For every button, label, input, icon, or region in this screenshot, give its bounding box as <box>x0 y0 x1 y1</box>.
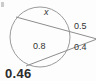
label-external-segment-lower: 0.4 <box>74 43 87 52</box>
circle-shape <box>10 7 70 67</box>
answer-value: 0.46 <box>5 66 32 81</box>
geometry-diagram-screenshot: x 0.8 0.5 0.4 0.46 <box>0 0 96 81</box>
label-external-segment-upper: 0.5 <box>74 22 87 31</box>
label-chord-upper: x <box>44 8 49 17</box>
label-chord-lower: 0.8 <box>33 42 46 51</box>
